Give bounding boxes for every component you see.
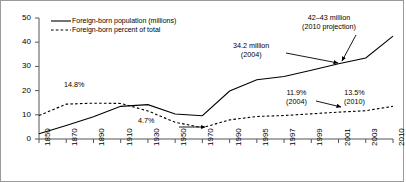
- x-tick-label: 1890: [97, 128, 106, 146]
- annotation-percent-2004-line2: (2004): [286, 98, 307, 107]
- series-line-population: [39, 36, 393, 134]
- arrow-population-2004: [286, 53, 338, 63]
- x-tick-label: 1995: [261, 128, 270, 146]
- y-tick-label: 10: [9, 110, 31, 119]
- x-axis-ticks: [39, 139, 393, 143]
- x-tick-label: 1990: [234, 128, 243, 146]
- annotation-peak-percent: 14.8%: [64, 81, 84, 90]
- annotation-percent-2004: 11.9% (2004): [286, 89, 307, 106]
- arrow-population-2010-projection: [342, 35, 356, 61]
- y-tick-label: 20: [9, 86, 31, 95]
- y-tick-label: 50: [9, 13, 31, 22]
- x-tick-label: 1950: [179, 128, 188, 146]
- y-tick-label: 30: [9, 61, 31, 70]
- annotation-population-2004-line2: (2004): [233, 51, 269, 60]
- x-tick-label: 2003: [370, 128, 379, 146]
- annotation-trough-percent: 4.7%: [138, 117, 154, 126]
- x-tick-label: 1970: [206, 128, 215, 146]
- arrow-percent-2004: [316, 101, 341, 107]
- x-tick-label: 2001: [343, 128, 352, 146]
- annotation-percent-2010: 13.5% (2010): [344, 89, 365, 106]
- x-tick-label: 1850: [43, 128, 52, 146]
- x-tick-label: 1930: [152, 128, 161, 146]
- legend-label-population: Foreign-born population (millions): [72, 17, 176, 24]
- y-tick-label: 0: [9, 134, 31, 143]
- annotation-population-2010-projection-line2: (2010 projection): [302, 23, 356, 32]
- x-tick-label: 1999: [315, 128, 324, 146]
- x-tick-label: 2010: [397, 128, 406, 146]
- x-tick-label: 1997: [288, 128, 297, 146]
- legend-label-percent: Foreign-born percent of total: [72, 26, 160, 33]
- annotation-trough-percent-text: 4.7%: [138, 117, 154, 126]
- y-axis-ticks: [35, 18, 39, 139]
- y-tick-label: 40: [9, 37, 31, 46]
- x-tick-label: 1910: [125, 128, 134, 146]
- x-tick-label: 1870: [70, 128, 79, 146]
- annotation-population-2004: 34.2 million (2004): [233, 42, 269, 59]
- annotation-population-2010-projection: 42–43 million (2010 projection): [302, 14, 356, 31]
- annotation-peak-percent-text: 14.8%: [64, 81, 84, 90]
- annotation-percent-2010-line2: (2010): [344, 98, 365, 107]
